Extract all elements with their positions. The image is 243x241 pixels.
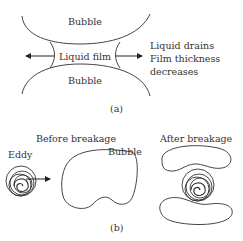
after-eddy-swirl bbox=[182, 169, 214, 201]
eddy-swirl bbox=[6, 166, 36, 196]
film-right-edge bbox=[116, 42, 121, 68]
label-eddy: Eddy bbox=[8, 149, 32, 160]
after-bubble-bottom bbox=[160, 198, 232, 225]
film-left-edge bbox=[50, 42, 55, 68]
label-bubble: Bubble bbox=[108, 146, 142, 157]
after-title: After breakage bbox=[160, 133, 232, 144]
label-top-bubble: Bubble bbox=[68, 16, 102, 27]
note-line-2: Film thickness bbox=[150, 53, 220, 64]
label-bottom-bubble: Bubble bbox=[68, 75, 102, 86]
diagram-canvas bbox=[0, 0, 243, 241]
before-bubble bbox=[62, 150, 138, 209]
note-line-1: Liquid drains bbox=[150, 40, 214, 51]
label-liquid-film: Liquid film bbox=[59, 51, 111, 62]
caption-a: (a) bbox=[110, 103, 123, 114]
after-bubble-top bbox=[162, 146, 231, 171]
caption-b: (b) bbox=[110, 222, 124, 233]
before-title: Before breakage bbox=[36, 133, 116, 144]
note-line-3: decreases bbox=[150, 66, 198, 77]
